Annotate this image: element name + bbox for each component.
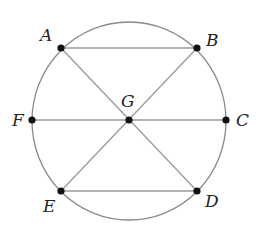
point-e	[57, 187, 64, 194]
label-f: F	[12, 112, 24, 129]
label-c: C	[236, 112, 249, 129]
label-g: G	[121, 93, 135, 110]
point-f	[28, 116, 35, 123]
label-d: D	[205, 193, 219, 210]
label-a: A	[40, 27, 52, 44]
label-e: E	[43, 198, 55, 215]
point-g	[125, 116, 132, 123]
point-c	[222, 116, 229, 123]
point-b	[193, 44, 200, 51]
point-d	[193, 187, 200, 194]
point-a	[57, 44, 64, 51]
watermark-artifact	[236, 4, 250, 30]
label-b: B	[206, 32, 219, 49]
